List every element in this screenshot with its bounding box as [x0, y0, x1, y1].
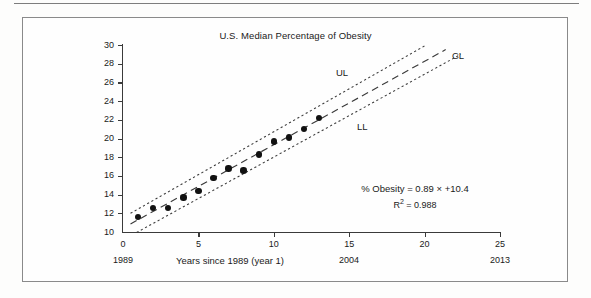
regression-equation-text: % Obesity = 0.89 × +10.4	[330, 182, 500, 195]
data-point	[256, 151, 262, 157]
data-point	[180, 194, 186, 200]
data-point	[286, 134, 292, 140]
regression-lines-group	[0, 0, 591, 298]
line-label-ll: LL	[357, 121, 368, 132]
data-point	[225, 165, 231, 171]
data-point	[240, 167, 246, 173]
data-point	[210, 175, 216, 181]
equation-annotation: % Obesity = 0.89 × +10.4 R2 = 0.988	[330, 182, 500, 212]
data-point	[271, 138, 277, 144]
data-point	[195, 188, 201, 194]
r2-value: = 0.988	[404, 200, 437, 210]
r-squared-text: R2 = 0.988	[330, 195, 500, 212]
line-label-ul: UL	[336, 67, 348, 78]
line-label-cl: CL	[452, 50, 464, 61]
